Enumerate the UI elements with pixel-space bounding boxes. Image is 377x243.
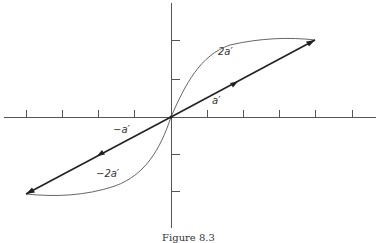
vector-a-prime xyxy=(171,40,315,117)
label-a-prime: a′ xyxy=(212,96,220,106)
label-neg-2a-prime: −2a′ xyxy=(96,169,119,179)
arrowhead-a-prime-mid xyxy=(230,82,238,88)
arrowhead-neg-a-prime-tip xyxy=(26,188,35,195)
figure-caption: Figure 8.3 xyxy=(0,232,377,243)
label-neg-a-prime: −a′ xyxy=(113,125,130,135)
arrowhead-neg-a-prime-mid xyxy=(97,150,105,156)
arrowhead-a-prime-tip xyxy=(306,40,315,47)
label-2a-prime: 2a′ xyxy=(218,47,233,57)
x-axis-ticks xyxy=(27,110,353,117)
origin-point xyxy=(169,115,172,118)
